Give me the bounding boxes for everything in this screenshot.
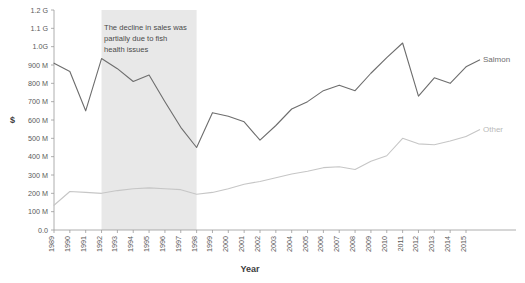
series-leader-line-salmon — [466, 60, 480, 67]
y-tick-label: 0.0 — [38, 226, 48, 235]
x-axis-title: Year — [240, 264, 260, 274]
y-tick-label: 1.0G — [32, 42, 48, 51]
chart-container: 0.0100 M200 M300 M400 M500 M600 M700 M80… — [0, 0, 525, 283]
x-tick-label: 2000 — [221, 236, 230, 252]
series-label-other: Other — [483, 125, 503, 134]
y-axis-title: $ — [10, 115, 15, 125]
x-tick-label: 2015 — [459, 236, 468, 252]
x-tick-label: 1998 — [190, 236, 199, 252]
y-tick-label: 500 M — [28, 134, 48, 143]
x-tick-label: 2003 — [269, 236, 278, 252]
series-label-salmon: Salmon — [483, 55, 510, 64]
y-tick-label: 800 M — [28, 79, 48, 88]
x-tick-label: 2001 — [237, 236, 246, 252]
x-tick-label: 2012 — [411, 236, 420, 252]
x-tick-label: 1989 — [47, 236, 56, 252]
x-tick-label: 1991 — [79, 236, 88, 252]
x-tick-label: 1995 — [142, 236, 151, 252]
x-tick-label: 1996 — [158, 236, 167, 252]
y-tick-label: 300 M — [28, 171, 48, 180]
x-tick-label: 1993 — [110, 236, 119, 252]
x-tick-label: 2010 — [380, 236, 389, 252]
x-tick-label: 2008 — [348, 236, 357, 252]
y-tick-label: 600 M — [28, 116, 48, 125]
x-tick-label: 1997 — [174, 236, 183, 252]
x-tick-label: 1990 — [63, 236, 72, 252]
x-tick-label: 1999 — [205, 236, 214, 252]
annotation-line: health issues — [104, 45, 149, 54]
y-tick-label: 700 M — [28, 97, 48, 106]
x-tick-label: 1992 — [95, 236, 104, 252]
annotation-line: partially due to fish — [104, 34, 167, 43]
x-tick-label: 2006 — [316, 236, 325, 252]
annotation-shaded-band — [102, 10, 197, 230]
y-tick-label: 900 M — [28, 61, 48, 70]
y-tick-label: 400 M — [28, 152, 48, 161]
x-tick-label: 2007 — [332, 236, 341, 252]
x-tick-label: 2005 — [301, 236, 310, 252]
x-tick-label: 2011 — [396, 236, 405, 251]
y-tick-label: 1.2 G — [30, 6, 48, 15]
series-leader-line-other — [466, 130, 480, 137]
annotation-line: The decline in sales was — [104, 23, 187, 32]
line-chart: 0.0100 M200 M300 M400 M500 M600 M700 M80… — [0, 0, 525, 283]
y-tick-label: 100 M — [28, 207, 48, 216]
x-tick-label: 2009 — [364, 236, 373, 252]
y-tick-label: 200 M — [28, 189, 48, 198]
x-tick-label: 2004 — [285, 236, 294, 252]
y-tick-label: 1.1 G — [30, 24, 48, 33]
x-tick-label: 2002 — [253, 236, 262, 252]
x-tick-label: 2013 — [427, 236, 436, 252]
x-tick-label: 1994 — [126, 236, 135, 252]
x-tick-label: 2014 — [443, 236, 452, 252]
